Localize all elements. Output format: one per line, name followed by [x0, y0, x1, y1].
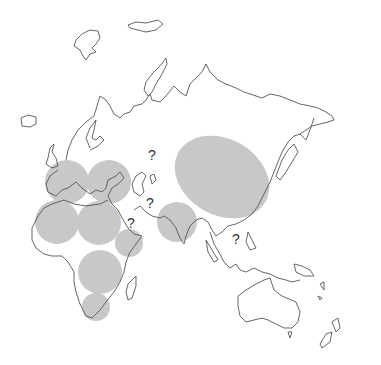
philippines-outline — [246, 232, 256, 250]
question-mark-icon: ? — [127, 215, 135, 231]
iceland-outline — [21, 115, 36, 127]
new-zealand-outline — [320, 318, 340, 348]
madagascar-outline — [126, 276, 136, 300]
caspian-sea-outline — [132, 172, 146, 196]
question-mark-icon: ? — [232, 231, 240, 247]
world-map: ???? — [0, 0, 381, 365]
region-south-asia — [157, 202, 197, 242]
aral-sea-outline — [150, 174, 156, 184]
region-northeast-africa — [77, 201, 121, 245]
region-northwest-africa — [35, 200, 79, 244]
region-horn-of-africa — [115, 229, 143, 257]
question-mark-icon: ? — [148, 147, 156, 163]
svalbard-outline — [74, 30, 100, 60]
japan-outline — [276, 144, 298, 180]
novaya-zemlya-outline — [144, 58, 167, 96]
sumatra-outline — [206, 240, 218, 262]
australia-outline — [238, 278, 300, 328]
southeast-asia-outline — [210, 232, 300, 282]
shaded-regions — [35, 119, 284, 321]
franz-josef-outline — [128, 20, 163, 32]
tasmania-outline — [288, 332, 292, 338]
region-central-africa — [78, 250, 122, 294]
question-mark-icon: ? — [146, 195, 154, 211]
region-western-europe — [45, 160, 89, 204]
new-guinea-outline — [294, 264, 314, 276]
baltic-outline — [86, 120, 104, 150]
pacific-islands-outline — [318, 282, 324, 300]
region-southern-africa — [82, 293, 110, 321]
